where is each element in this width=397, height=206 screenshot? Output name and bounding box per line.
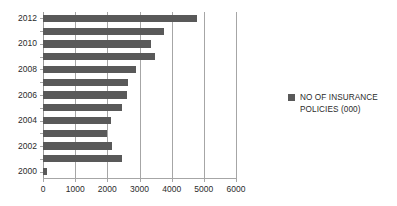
x-axis: 0100020003000400050006000 (0, 178, 397, 200)
x-tick-mark-3000 (140, 178, 141, 182)
bar-2003 (43, 130, 107, 137)
legend-square-marker-icon (288, 94, 295, 101)
bar-chart: 2012201020082006200420022000 01000200030… (0, 0, 397, 206)
y-tick-label-2012: 2012 (18, 14, 37, 23)
legend-label: NO OF INSURANCE POLICIES (000) (300, 92, 378, 115)
y-tick-label-2010: 2010 (18, 39, 37, 48)
bar-slot (43, 130, 236, 137)
bar-2012 (43, 15, 197, 22)
bar-slot (43, 53, 236, 60)
bars-group (43, 12, 236, 178)
bar-slot (43, 66, 236, 73)
x-tick-mark-4000 (172, 178, 173, 182)
plot-area (43, 12, 236, 178)
x-tick-mark-1000 (75, 178, 76, 182)
x-tick-label-3000: 3000 (130, 184, 149, 194)
x-tick-label-5000: 5000 (194, 184, 213, 194)
bar-slot (43, 117, 236, 124)
bar-slot (43, 79, 236, 86)
bar-2005 (43, 104, 122, 111)
x-tick-mark-0 (43, 178, 44, 182)
y-tick-label-2000: 2000 (18, 167, 37, 176)
bar-slot (43, 15, 236, 22)
x-tick-mark-2000 (107, 178, 108, 182)
bar-2011 (43, 28, 164, 35)
bar-slot (43, 104, 236, 111)
gridline-6000 (236, 12, 237, 178)
y-tick-label-2006: 2006 (18, 91, 37, 100)
legend-label-line-1: NO OF INSURANCE (300, 93, 378, 102)
bar-slot (43, 28, 236, 35)
x-tick-label-0: 0 (41, 184, 46, 194)
bar-2000 (43, 168, 47, 175)
x-tick-mark-5000 (204, 178, 205, 182)
bar-slot (43, 91, 236, 98)
y-tick-label-2002: 2002 (18, 142, 37, 151)
bar-slot (43, 155, 236, 162)
bar-2004 (43, 117, 111, 124)
bar-slot (43, 168, 236, 175)
legend-label-line-2: POLICIES (000) (300, 105, 361, 114)
y-tick-label-2004: 2004 (18, 116, 37, 125)
x-tick-label-2000: 2000 (98, 184, 117, 194)
x-tick-label-1000: 1000 (66, 184, 85, 194)
bar-2006 (43, 91, 127, 98)
y-axis: 2012201020082006200420022000 (0, 12, 43, 178)
x-tick-label-4000: 4000 (162, 184, 181, 194)
x-tick-mark-6000 (236, 178, 237, 182)
bar-2009 (43, 53, 155, 60)
bar-slot (43, 40, 236, 47)
bar-2001 (43, 155, 122, 162)
bar-2002 (43, 142, 112, 149)
bar-2008 (43, 66, 136, 73)
chart-legend: NO OF INSURANCE POLICIES (000) (288, 92, 394, 115)
bar-slot (43, 142, 236, 149)
y-tick-label-2008: 2008 (18, 65, 37, 74)
bar-2007 (43, 79, 128, 86)
bar-2010 (43, 40, 151, 47)
x-tick-label-6000: 6000 (227, 184, 246, 194)
